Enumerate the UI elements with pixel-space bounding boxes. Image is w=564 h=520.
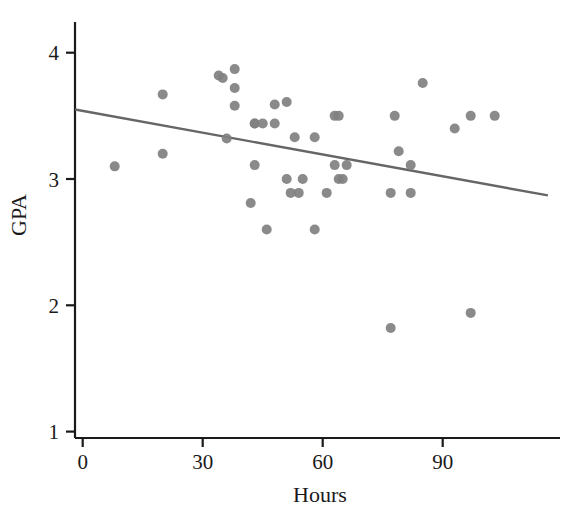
- data-points: [110, 64, 500, 333]
- scatter-point: [394, 146, 404, 156]
- scatter-point: [490, 111, 500, 121]
- scatter-point: [230, 101, 240, 111]
- scatter-point: [270, 99, 280, 109]
- scatter-point: [294, 188, 304, 198]
- scatter-point: [282, 97, 292, 107]
- scatter-point: [246, 198, 256, 208]
- scatter-point: [322, 188, 332, 198]
- trend-line: [75, 110, 548, 196]
- regression-line: [75, 110, 548, 196]
- scatter-point: [450, 123, 460, 133]
- scatter-point: [386, 323, 396, 333]
- scatter-point: [110, 161, 120, 171]
- y-axis-title: GPA: [6, 194, 31, 236]
- scatter-point: [250, 160, 260, 170]
- scatter-point: [230, 64, 240, 74]
- scatter-point: [342, 160, 352, 170]
- y-axis-tick-label: 2: [49, 294, 60, 318]
- scatter-point: [310, 132, 320, 142]
- scatter-point: [386, 188, 396, 198]
- scatter-point: [218, 73, 228, 83]
- x-axis-tick-label: 90: [432, 450, 453, 474]
- y-axis-tick-label: 1: [49, 420, 60, 444]
- scatter-plot-figure: 12340306090 HoursGPA: [0, 0, 564, 520]
- scatter-point: [158, 149, 168, 159]
- scatter-point: [158, 89, 168, 99]
- scatter-point: [466, 111, 476, 121]
- scatter-point: [338, 174, 348, 184]
- axis-labels: HoursGPA: [6, 194, 347, 507]
- scatter-point: [418, 78, 428, 88]
- scatter-point: [334, 111, 344, 121]
- scatter-point: [330, 160, 340, 170]
- scatter-point: [406, 160, 416, 170]
- x-axis-tick-label: 0: [77, 450, 88, 474]
- scatter-point: [222, 134, 232, 144]
- x-axis-title: Hours: [293, 482, 347, 507]
- plot-canvas: 12340306090 HoursGPA: [0, 0, 564, 520]
- x-axis-tick-label: 30: [192, 450, 213, 474]
- scatter-point: [258, 118, 268, 128]
- scatter-point: [466, 308, 476, 318]
- scatter-point: [298, 174, 308, 184]
- axes: 12340306090: [49, 22, 561, 474]
- y-axis-tick-label: 3: [49, 168, 60, 192]
- scatter-point: [230, 83, 240, 93]
- scatter-point: [406, 188, 416, 198]
- scatter-point: [290, 132, 300, 142]
- x-axis-tick-label: 60: [312, 450, 333, 474]
- scatter-point: [390, 111, 400, 121]
- scatter-point: [270, 118, 280, 128]
- scatter-point: [282, 174, 292, 184]
- scatter-point: [262, 225, 272, 235]
- y-axis-tick-label: 4: [49, 41, 60, 65]
- scatter-point: [310, 225, 320, 235]
